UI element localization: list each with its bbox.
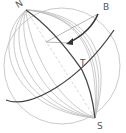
label-b: B — [103, 3, 109, 12]
label-south: S — [97, 122, 103, 131]
arrowhead-icon — [66, 38, 73, 45]
label-t: T — [80, 59, 86, 68]
sphere-diagram — [0, 0, 126, 133]
arrow-b-to-center — [70, 14, 98, 42]
